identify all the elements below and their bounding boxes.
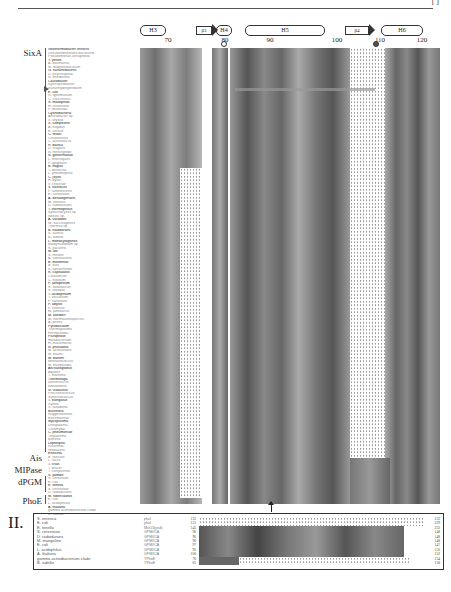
group-bracket (45, 495, 46, 504)
group-label-ais: Ais (2, 453, 42, 463)
panel-2-alignment (199, 517, 424, 565)
panel-2-id: YPhoE (144, 561, 162, 565)
panel-2-end: 152 (435, 552, 440, 556)
panel-2-end: 158 (435, 561, 440, 565)
up-arrow-icon (271, 504, 272, 512)
gap-region (199, 517, 424, 526)
panel-2-start: 13213114596969697951007681 (184, 517, 196, 565)
page-ref: [ ] (432, 0, 439, 6)
helix-h3: H3 (140, 25, 166, 36)
alignment-block (199, 557, 239, 565)
panel-2-ids: phoIphoIMut13(ped)GPM/ICAGPM/ICAGPM/ICAG… (144, 517, 162, 565)
group-label-phoe: PhoE (2, 496, 42, 506)
tick: 120 (417, 36, 428, 44)
alignment-block (212, 48, 228, 504)
panel-2-label: II. (8, 513, 24, 533)
strand-b4: β4 (345, 26, 369, 35)
strand-b3: β3 (196, 26, 212, 35)
alignment-block (385, 48, 440, 504)
helix-h6: H6 (381, 25, 423, 36)
group-bracket (45, 48, 46, 452)
panel-2-start: 81 (184, 561, 196, 565)
alignment-panel-2: S. entericaE. coliE. tenellaS. cerevisia… (33, 513, 444, 570)
panel-2-species: S. entericaE. coliE. tenellaS. cerevisia… (37, 517, 90, 565)
group-label-sixa: SixA (2, 48, 42, 58)
group-bracket (45, 476, 46, 492)
alignment-block (230, 48, 350, 504)
panel-2-end: 148 (435, 530, 440, 534)
alignment-block (199, 526, 404, 557)
page-header-rule (18, 8, 433, 9)
site-marker-icon (373, 41, 379, 47)
alignment-block (202, 48, 212, 504)
panel-2-species: B. subtilis (37, 561, 90, 565)
panel-2-end: 232229252148148148147150152154158 (435, 517, 440, 565)
group-label-mipase: MIPase (2, 465, 42, 475)
tick: 70 (165, 36, 172, 44)
site-marker-icon (221, 41, 227, 47)
residue-ruler: 70 80 90 100 110 120 (140, 36, 440, 46)
tick: 100 (332, 36, 343, 44)
helix-h5: H5 (245, 25, 325, 36)
highlight-row (235, 88, 375, 91)
tick: 90 (267, 36, 274, 44)
alignment-block (350, 458, 390, 504)
species-list: Geothermobacter ehrlichiiDesulfovibriona… (48, 48, 136, 516)
gap-region (239, 557, 409, 565)
alignment-panel-1 (140, 48, 440, 504)
group-label-dpgm: dPGM (2, 477, 42, 487)
helix-h4: H4 (216, 25, 232, 36)
